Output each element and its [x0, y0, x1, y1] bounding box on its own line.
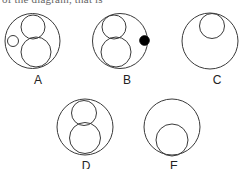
medium-circle-top	[200, 14, 225, 39]
medium-circle-top-left	[102, 15, 126, 39]
filled-dot-right	[140, 36, 150, 46]
option-group-a[interactable]	[5, 14, 60, 69]
small-circle-left	[8, 36, 19, 47]
option-group-c[interactable]	[182, 13, 238, 69]
outer-circle	[5, 14, 60, 69]
option-group-d[interactable]	[57, 99, 113, 155]
figure-root: of the diagram, that is A B C D E	[0, 0, 245, 169]
outer-circle	[144, 99, 200, 155]
medium-circle-top-right	[21, 15, 45, 39]
option-label-b: B	[117, 74, 137, 86]
option-label-c: C	[207, 74, 227, 86]
option-group-b[interactable]	[93, 14, 150, 69]
outer-circle	[182, 13, 238, 69]
medium-circle-top	[72, 101, 97, 126]
option-label-a: A	[28, 74, 48, 86]
option-group-e[interactable]	[144, 99, 200, 156]
large-circle-bottom	[70, 123, 101, 154]
option-label-e: E	[164, 160, 184, 169]
large-circle-bottom-left	[101, 37, 131, 67]
outer-circle	[57, 99, 113, 155]
large-circle-bottom-right	[21, 37, 51, 67]
large-circle-bottom	[156, 124, 188, 156]
option-label-d: D	[76, 160, 96, 169]
